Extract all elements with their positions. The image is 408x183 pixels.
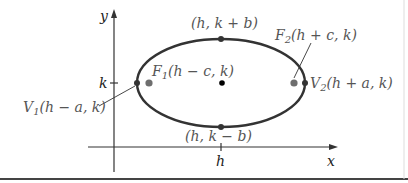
focus1-point	[145, 79, 152, 86]
center-point	[219, 80, 225, 86]
focus1-label: F1(h − c, k)	[151, 63, 234, 81]
x-axis-label: x	[327, 153, 335, 169]
ellipse-diagram: y x k h (h, k + b) (h, k − b) F1(h − c, …	[0, 0, 408, 183]
vertex1-label: V1(h − a, k)	[23, 99, 106, 117]
x-axis-arrow-icon	[329, 144, 338, 150]
y-axis-label: y	[99, 8, 109, 24]
focus1-coords: (h − c, k)	[168, 63, 234, 79]
bottom-point-label: (h, k − b)	[185, 128, 252, 144]
top-point-label: (h, k + b)	[191, 15, 258, 31]
k-tick-label: k	[99, 75, 107, 91]
focus2-point	[290, 79, 297, 86]
top-point	[218, 36, 224, 42]
focus2-label: F2(h + c, k)	[274, 27, 357, 45]
h-tick-label: h	[216, 153, 225, 169]
y-axis-arrow-icon	[111, 9, 117, 18]
vertex2-sub: 2	[319, 82, 326, 93]
vertex2-point	[302, 80, 308, 86]
vertex2-coords: (h + a, k)	[327, 75, 393, 91]
focus2-coords: (h + c, k)	[291, 27, 357, 43]
vertex2-label: V2(h + a, k)	[310, 75, 393, 93]
vertex1-coords: (h − a, k)	[40, 99, 106, 115]
vertex1-point	[134, 80, 140, 86]
focus2-sub: 2	[284, 34, 291, 45]
